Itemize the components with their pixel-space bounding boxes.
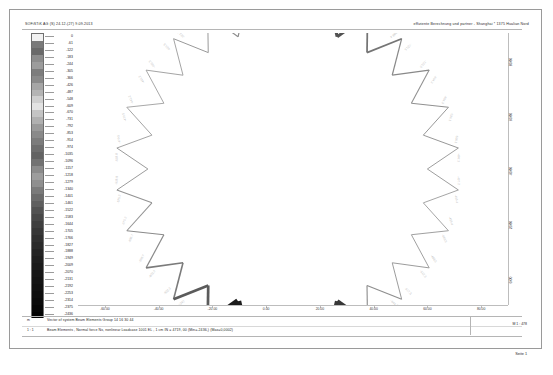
- colorbar-swatch: [32, 117, 43, 124]
- beam-element[interactable]: [127, 203, 152, 231]
- beam-force-annotation: -575.2: [116, 194, 122, 204]
- colorbar-swatch: [32, 214, 43, 221]
- colorbar-tick-lead: [45, 251, 54, 252]
- beam-element[interactable]: [117, 169, 148, 190]
- colorbar-tick: -366: [45, 75, 73, 81]
- x-axis-line: [78, 305, 508, 306]
- beam-element[interactable]: [127, 231, 164, 235]
- colorbar-swatch: [32, 48, 43, 55]
- beam-force-annotation: -536.1: [448, 112, 455, 122]
- x-tick-label: 80.00: [477, 307, 486, 311]
- colorbar-swatch: [32, 187, 43, 194]
- colorbar-tick-value: -731: [66, 116, 73, 122]
- colorbar-tick-value: -305: [66, 68, 73, 74]
- beam-element[interactable]: [117, 148, 148, 169]
- beam-force-annotation: -536.1: [454, 135, 460, 145]
- beam-element[interactable]: [367, 285, 402, 299]
- beam-element[interactable]: [411, 103, 448, 107]
- colorbar-tick-lead: [45, 64, 54, 65]
- colorbar-tick: -2253: [45, 290, 73, 296]
- beam-element[interactable]: [427, 148, 458, 169]
- colorbar-tick-lead: [45, 43, 54, 44]
- colorbar-tick-lead: [45, 307, 54, 308]
- beam-element[interactable]: [427, 169, 458, 190]
- beam-element[interactable]: [117, 135, 152, 148]
- colorbar-tick-value: -183: [66, 54, 73, 60]
- beam-element[interactable]: [423, 107, 448, 135]
- colorbar-tick: -183: [45, 54, 73, 60]
- beam-element[interactable]: [329, 33, 337, 37]
- colorbar-swatch: [32, 291, 43, 298]
- beam-element[interactable]: [174, 39, 183, 76]
- colorbar-tick-lead: [45, 99, 54, 100]
- colorbar-tick-value: -426: [66, 82, 73, 88]
- beam-element[interactable]: [174, 285, 209, 299]
- beam-element[interactable]: [367, 39, 402, 53]
- colorbar-tick-lead: [45, 175, 54, 176]
- colorbar-tick-lead: [45, 210, 54, 211]
- colorbar-swatch: [32, 180, 43, 187]
- colorbar-tick: -548: [45, 96, 73, 102]
- beam-element[interactable]: [174, 39, 209, 53]
- colorbar-tick-value: -1644: [64, 221, 73, 227]
- beam-element[interactable]: [208, 33, 209, 53]
- colorbar-swatch: [32, 124, 43, 131]
- beam-force-annotation: -488.5: [441, 234, 448, 244]
- footer-divider: [470, 317, 471, 335]
- beam-element[interactable]: [423, 190, 458, 203]
- beam-element[interactable]: [392, 263, 429, 268]
- x-tick-label: 60.00: [423, 307, 432, 311]
- beam-element[interactable]: [146, 263, 183, 268]
- x-tick-label: 40.00: [369, 307, 378, 311]
- beam-element[interactable]: [423, 135, 458, 148]
- beam-element[interactable]: [337, 33, 367, 37]
- colorbar-tick-value: -1218: [64, 172, 73, 178]
- beam-element[interactable]: [392, 39, 401, 76]
- colorbar-tick-lead: [45, 147, 54, 148]
- beam-element[interactable]: [146, 70, 164, 103]
- beam-element[interactable]: [367, 33, 368, 53]
- beam-force-annotation: -441.2: [137, 74, 145, 84]
- colorbar-legend[interactable]: 0-61-122-183-244-305-366-426-487-548-609…: [31, 33, 73, 318]
- beam-element[interactable]: [146, 70, 183, 75]
- colorbar-tick-lead: [45, 272, 54, 273]
- colorbar-tick-lead: [45, 78, 54, 79]
- colorbar-tick: -853: [45, 130, 73, 136]
- colorbar-swatch: [32, 256, 43, 263]
- beam-element[interactable]: [392, 70, 429, 75]
- beam-element[interactable]: [174, 263, 183, 300]
- beam-element[interactable]: [208, 33, 238, 37]
- colorbar-tick-lead: [45, 36, 54, 37]
- colorbar-tick-lead: [45, 286, 54, 287]
- beam-element[interactable]: [423, 203, 448, 231]
- beam-element[interactable]: [238, 33, 246, 37]
- beam-element[interactable]: [146, 235, 164, 268]
- x-tick-label: 0.00: [263, 307, 270, 311]
- beam-element[interactable]: [127, 107, 152, 135]
- beam-element[interactable]: [367, 285, 368, 305]
- colorbar-tick-lead: [45, 71, 54, 72]
- colorbar-tick-lead: [45, 203, 54, 204]
- colorbar-tick-value: -974: [66, 144, 73, 150]
- colorbar-tick-lead: [45, 126, 54, 127]
- colorbar-tick-value: -122: [66, 47, 73, 53]
- beam-force-annotation: -604.3: [430, 75, 438, 85]
- colorbar-swatch: [32, 284, 43, 291]
- beam-element-structure[interactable]: -2436-2436-1827-1827-644.2-644.2-512.3-5…: [78, 33, 508, 305]
- beam-element[interactable]: [208, 285, 209, 305]
- beam-element[interactable]: [411, 235, 429, 268]
- beam-element[interactable]: [392, 263, 401, 300]
- x-tick-label: -20.00: [208, 307, 218, 311]
- beam-force-annotation: -988.4: [389, 33, 399, 39]
- colorbar-tick: -1644: [45, 221, 73, 227]
- colorbar-swatch: [32, 152, 43, 159]
- beam-force-annotation: -698.7: [138, 254, 146, 264]
- beam-element[interactable]: [117, 190, 152, 203]
- colorbar-tick-lead: [45, 106, 54, 107]
- colorbar-gradient: [31, 33, 44, 318]
- beam-element[interactable]: [411, 70, 429, 103]
- colorbar-tick: -974: [45, 144, 73, 150]
- colorbar-tick-lead: [45, 92, 54, 93]
- colorbar-tick-value: -366: [66, 75, 73, 81]
- colorbar-swatch: [32, 221, 43, 228]
